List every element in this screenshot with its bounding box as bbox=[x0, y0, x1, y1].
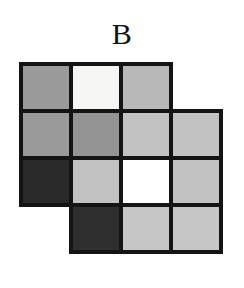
grid-cell-fill bbox=[23, 160, 69, 203]
grid-cell-fill bbox=[123, 160, 169, 203]
figure-root: B bbox=[0, 0, 244, 288]
grid-cell-fill bbox=[73, 113, 119, 156]
grid-cell bbox=[69, 203, 123, 254]
grid-cell-fill bbox=[123, 207, 169, 250]
grid-cell-fill bbox=[73, 207, 119, 250]
grid-cell bbox=[69, 62, 123, 113]
grid-cell-fill bbox=[23, 66, 69, 109]
grid-cell-fill bbox=[23, 113, 69, 156]
grid-cell bbox=[119, 109, 173, 160]
grid-cell-fill bbox=[173, 207, 219, 250]
grid-figure bbox=[19, 62, 227, 258]
grid-cell-fill bbox=[73, 160, 119, 203]
panel-label: B bbox=[0, 18, 244, 50]
grid-cell-fill bbox=[173, 113, 219, 156]
grid-cell-fill bbox=[173, 160, 219, 203]
grid-cell-fill bbox=[73, 66, 119, 109]
grid-cell bbox=[169, 109, 223, 160]
grid-cell bbox=[69, 156, 123, 207]
grid-cell bbox=[169, 156, 223, 207]
grid-cell bbox=[19, 109, 73, 160]
grid-cell bbox=[19, 62, 73, 113]
grid-cell bbox=[69, 109, 123, 160]
grid-cell bbox=[169, 203, 223, 254]
grid-cell bbox=[19, 156, 73, 207]
grid-cell-fill bbox=[123, 66, 169, 109]
grid-cell bbox=[119, 203, 173, 254]
grid-cell bbox=[119, 156, 173, 207]
grid-cell bbox=[119, 62, 173, 113]
grid-cell-fill bbox=[123, 113, 169, 156]
